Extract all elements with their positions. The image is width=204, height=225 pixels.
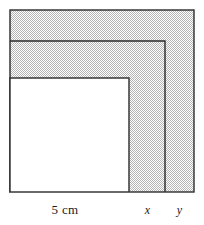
label-base-length: 5 cm [0, 203, 130, 216]
inner-square [10, 78, 129, 192]
label-y: y [165, 204, 194, 216]
label-x: x [130, 204, 165, 216]
diagram-canvas [0, 0, 204, 225]
geometry-figure: 5 cm x y [0, 0, 204, 225]
